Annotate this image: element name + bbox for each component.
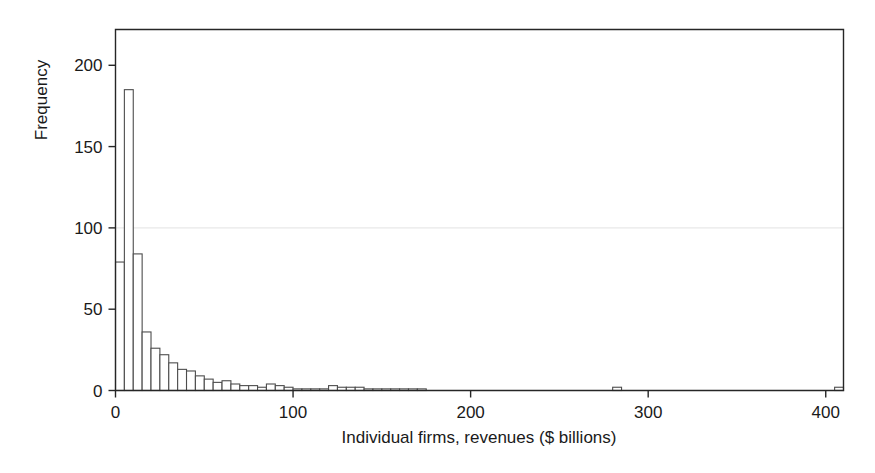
histogram-figure: Frequency 0100200300400 050100150200 Ind…: [0, 0, 875, 473]
histogram-bar: [249, 386, 258, 391]
histogram-bar: [231, 384, 240, 391]
y-tick-label: 150: [74, 138, 102, 157]
histogram-bar: [124, 90, 133, 391]
histogram-bar: [116, 262, 125, 390]
x-tick-label: 400: [812, 403, 840, 422]
x-tick-label: 0: [111, 403, 120, 422]
histogram-bar: [195, 376, 204, 391]
histogram-bar: [151, 348, 160, 390]
histogram-bar: [275, 386, 284, 391]
histogram-bar: [169, 363, 178, 391]
y-tick-label: 100: [74, 219, 102, 238]
histogram-bar: [187, 371, 196, 391]
histogram-bar: [178, 369, 187, 390]
histogram-bar: [133, 254, 142, 391]
histogram-bar: [213, 382, 222, 390]
histogram-bar: [329, 386, 338, 391]
x-axis-ticks: 0100200300400: [111, 391, 840, 422]
histogram-bars: [116, 90, 844, 391]
histogram-bar: [222, 381, 231, 391]
histogram-bar: [142, 332, 151, 391]
y-tick-label: 0: [93, 382, 102, 401]
y-axis-ticks: 050100150200: [74, 56, 115, 400]
histogram-bar: [240, 386, 249, 391]
plot-frame: [116, 30, 844, 391]
x-tick-label: 100: [279, 403, 307, 422]
histogram-bar: [160, 355, 169, 391]
y-tick-label: 200: [74, 56, 102, 75]
histogram-bar: [204, 379, 213, 390]
y-tick-label: 50: [84, 300, 103, 319]
histogram-bar: [266, 384, 275, 391]
x-axis-title: Individual firms, revenues ($ billions): [115, 428, 843, 448]
x-tick-label: 300: [634, 403, 662, 422]
histogram-plot: 0100200300400 050100150200: [0, 0, 875, 473]
x-tick-label: 200: [456, 403, 484, 422]
plot-border: [116, 30, 844, 391]
